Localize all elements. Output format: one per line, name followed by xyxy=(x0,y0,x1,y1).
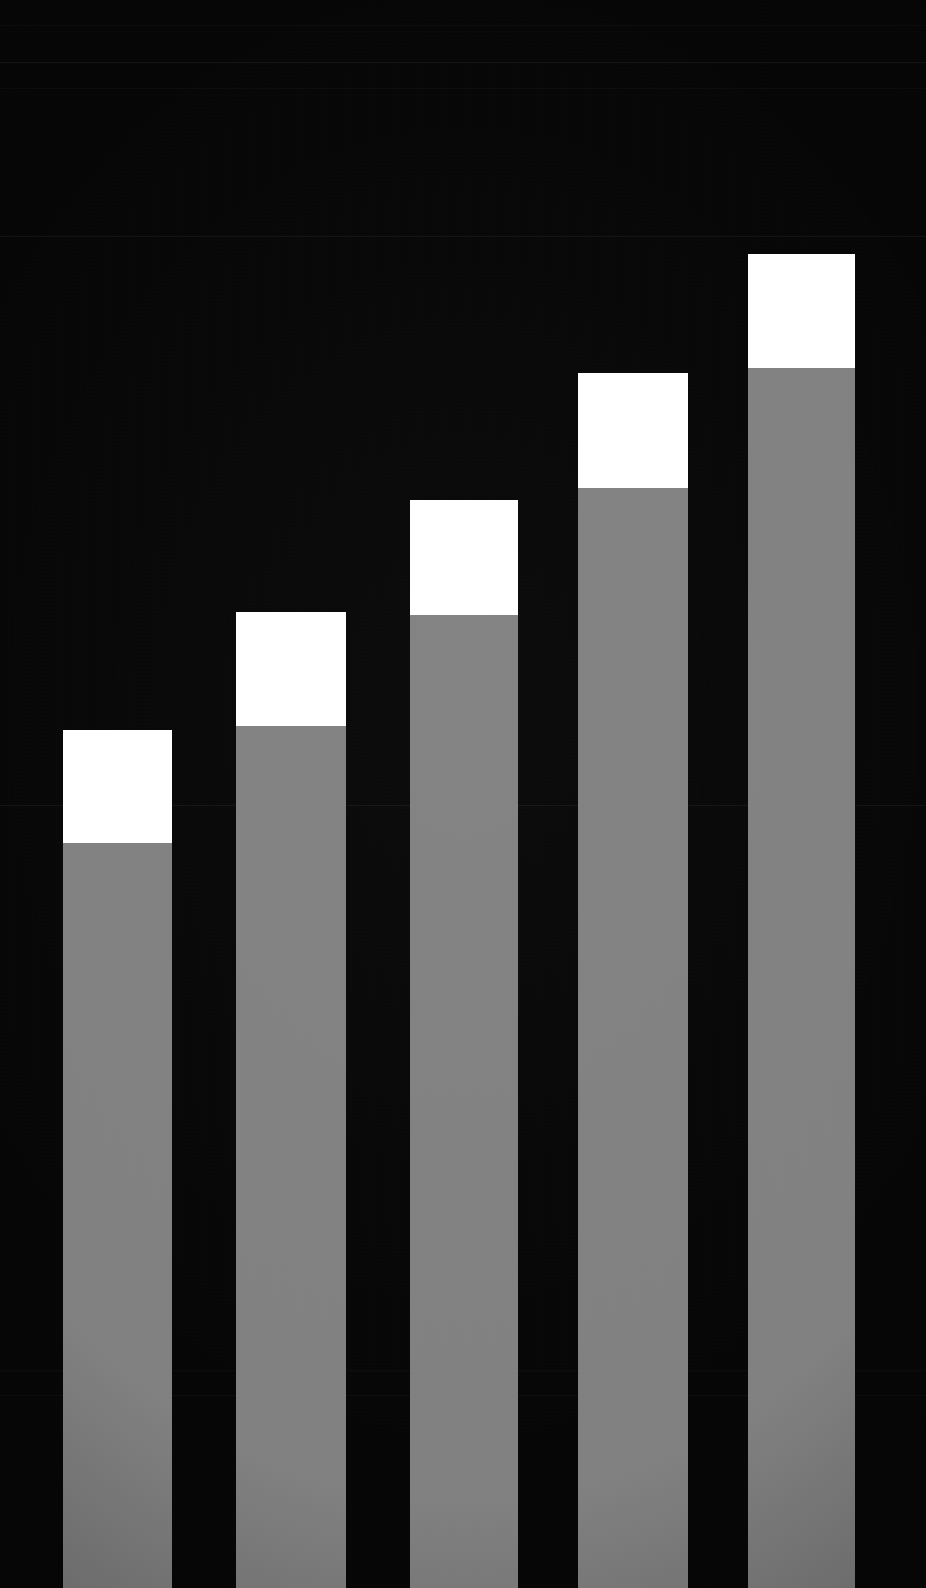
bar-4-base-segment xyxy=(578,488,688,1588)
bar-3[interactable]: 3 xyxy=(410,500,518,1588)
gridline-2 xyxy=(0,62,926,63)
bar-2-cap-segment xyxy=(236,612,346,726)
gridline-4 xyxy=(0,236,926,237)
gridline-3 xyxy=(0,88,926,89)
bar-1-cap-segment xyxy=(63,730,172,843)
bar-2[interactable]: 2 xyxy=(236,612,346,1588)
bar-5-cap-segment xyxy=(748,254,855,368)
bar-5-base-segment xyxy=(748,368,855,1588)
bar-3-cap-segment xyxy=(410,500,518,615)
bar-4-cap-segment xyxy=(578,373,688,488)
chart-canvas: 1 2 3 4 5 Close-up crop of a dark-themed… xyxy=(0,0,926,1588)
gridline-1 xyxy=(0,25,926,26)
bar-2-base-segment xyxy=(236,726,346,1588)
bar-4[interactable]: 4 xyxy=(578,373,688,1588)
bar-1-base-segment xyxy=(63,843,172,1588)
chart-description: Close-up crop of a dark-themed stacked b… xyxy=(0,0,1,1)
bar-1[interactable]: 1 xyxy=(63,730,172,1588)
bar-5[interactable]: 5 xyxy=(748,254,855,1588)
bar-3-base-segment xyxy=(410,615,518,1588)
